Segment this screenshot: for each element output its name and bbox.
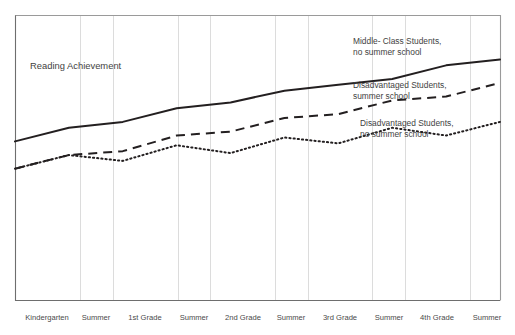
annotation-disadvantaged-summer-line2: summer school [353, 91, 410, 101]
annotation-disadvantaged-nosummer-line2: no summer school [360, 129, 429, 139]
reading-achievement-chart: Reading Achievement Middle- Class Studen… [0, 0, 515, 335]
annotation-disadvantaged-summer-line1: Disadvantaged Students, [353, 80, 447, 90]
annotation-middle-class-line1: Middle- Class Students, [353, 36, 441, 46]
x-axis-tick-label: Kindergarten [25, 313, 68, 322]
x-axis-tick-label: 1st Grade [128, 313, 161, 322]
x-axis-tick-label: 2nd Grade [225, 313, 261, 322]
annotation-disadvantaged-nosummer-line1: Disadvantaged Students, [360, 118, 454, 128]
chart-title: Reading Achievement [30, 60, 122, 71]
x-axis-tick-label: 3rd Grade [323, 313, 357, 322]
x-axis-tick-label: Summer [375, 313, 404, 322]
chart-background [0, 0, 515, 335]
x-axis-tick-label: Summer [277, 313, 306, 322]
chart-canvas: Reading Achievement Middle- Class Studen… [0, 0, 515, 335]
x-axis-tick-label: Summer [180, 313, 209, 322]
x-axis-tick-label: 4th Grade [420, 313, 454, 322]
annotation-middle-class-line2: no summer school [353, 47, 422, 57]
x-axis-tick-label: Summer [82, 313, 111, 322]
x-axis-tick-label: Summer [473, 313, 502, 322]
